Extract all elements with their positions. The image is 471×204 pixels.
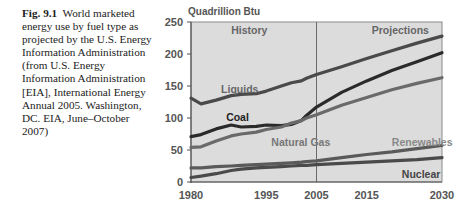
x-tick-label: 2005 xyxy=(304,189,328,201)
y-tick-label: 150 xyxy=(165,80,183,92)
plot-area: 05010015020025019801995200520152030Quadr… xyxy=(165,6,455,201)
y-tick-label: 200 xyxy=(165,48,183,60)
x-tick-label: 2030 xyxy=(430,189,454,201)
x-tick-label: 2015 xyxy=(354,189,378,201)
annotation-natural-gas: Natural Gas xyxy=(271,136,330,148)
x-tick-label: 1995 xyxy=(254,189,278,201)
y-tick-label: 250 xyxy=(165,16,183,28)
y-tick-label: 50 xyxy=(171,144,183,156)
energy-chart: 05010015020025019801995200520152030Quadr… xyxy=(0,0,471,204)
annotation-liquids: Liquids xyxy=(221,83,258,95)
y-tick-label: 100 xyxy=(165,112,183,124)
annotation-renewables: Renewables xyxy=(392,136,453,148)
annotation-projections: Projections xyxy=(372,24,429,36)
annotation-coal: Coal xyxy=(226,111,249,123)
y-tick-label: 0 xyxy=(177,176,183,188)
annotation-history: History xyxy=(231,24,267,36)
annotation-nuclear: Nuclear xyxy=(402,168,441,180)
x-tick-label: 1980 xyxy=(179,189,203,201)
y-axis-label: Quadrillion Btu xyxy=(188,6,260,17)
